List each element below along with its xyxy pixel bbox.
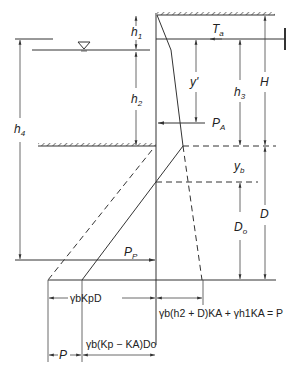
active-pressure-equation: γb(h2 + D)KA + γh1KA = P bbox=[159, 307, 283, 319]
Do-dimension: Do bbox=[234, 183, 248, 279]
top-ground-surface bbox=[157, 12, 275, 15]
tie-rod: Ta bbox=[156, 22, 285, 50]
h3-dimension: h3 bbox=[234, 40, 246, 145]
net-passive-dimension: γb(Kp − KA)Do bbox=[83, 338, 156, 355]
PP-resultant: PP bbox=[15, 245, 155, 261]
H-dimension: H bbox=[260, 16, 269, 145]
h4-label: h4 bbox=[14, 122, 26, 138]
h2-dimension: h2 bbox=[131, 52, 143, 145]
P-label: P bbox=[59, 348, 67, 362]
PA-label: PA bbox=[212, 116, 225, 132]
active-pressure-dimension: γb(h2 + D)KA + γh1KA = P bbox=[157, 298, 283, 319]
active-pressure-line-below-dredge bbox=[183, 146, 202, 280]
PA-resultant: PA bbox=[158, 116, 225, 132]
h1-label: h1 bbox=[131, 25, 142, 41]
h2-label: h2 bbox=[131, 92, 143, 108]
D-dimension: D bbox=[260, 147, 269, 279]
Do-label: Do bbox=[234, 220, 248, 236]
passive-width-dimension: γbKpD bbox=[49, 292, 155, 304]
h1-dimension: h1 bbox=[131, 16, 142, 49]
active-pressure-line bbox=[157, 15, 183, 146]
y-prime-dimension: y' bbox=[189, 40, 199, 122]
P-dimension: P bbox=[49, 348, 81, 362]
Ta-label: Ta bbox=[212, 22, 224, 38]
H-label: H bbox=[260, 75, 269, 89]
water-table-triangle-icon bbox=[78, 42, 90, 49]
passive-width-equation: γbKpD bbox=[70, 292, 102, 304]
sheet-pile-diagram: h1 h2 Ta y' PA h3 H bbox=[0, 0, 294, 373]
D-label: D bbox=[260, 207, 269, 221]
PP-label: PP bbox=[124, 245, 138, 261]
h3-label: h3 bbox=[234, 85, 246, 101]
net-passive-equation: γb(Kp − KA)Do bbox=[86, 338, 156, 350]
h4-dimension: h4 bbox=[14, 40, 26, 259]
water-table bbox=[32, 42, 150, 51]
yb-label: yb bbox=[233, 159, 245, 175]
yprime-label: y' bbox=[189, 75, 199, 89]
